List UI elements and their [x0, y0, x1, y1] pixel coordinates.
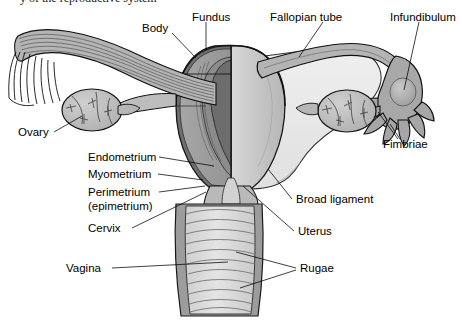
label-uterus: Uterus [298, 225, 332, 237]
label-broad-ligament: Broad ligament [296, 193, 374, 205]
vagina [175, 204, 263, 316]
label-myometrium: Myometrium [88, 168, 151, 180]
label-fundus: Fundus [192, 11, 231, 23]
anatomy-figure: y of the reproductive system [0, 0, 462, 328]
cropped-caption-text: y of the reproductive system [20, 0, 157, 5]
label-rugae: Rugae [300, 262, 334, 274]
label-body: Body [142, 22, 168, 34]
label-vagina: Vagina [66, 262, 102, 274]
cropped-caption-row: y of the reproductive system [20, 0, 157, 5]
label-fimbriae: Fimbriae [383, 138, 428, 150]
label-endometrium: Endometrium [88, 151, 156, 163]
infundibulum-funnel [390, 78, 416, 106]
label-infundibulum: Infundibulum [390, 11, 456, 23]
label-epimetrium: (epimetrium) [88, 200, 153, 212]
label-fallopian-tube: Fallopian tube [270, 11, 342, 23]
label-perimetrium: Perimetrium [88, 186, 150, 198]
label-ovary: Ovary [18, 126, 49, 138]
label-cervix: Cervix [88, 222, 121, 234]
